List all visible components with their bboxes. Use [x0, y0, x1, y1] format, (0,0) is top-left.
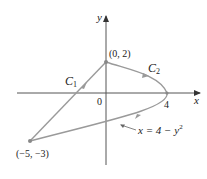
equation-label: x = 4 − y2	[137, 123, 183, 136]
point-0-2	[104, 60, 108, 64]
y-axis-label: y	[96, 11, 102, 23]
point-4-0	[165, 91, 168, 94]
c2-label: C2	[148, 61, 160, 76]
x-tick-4-label: 4	[164, 99, 169, 110]
line-integral-diagram: y x 0 4 (0, 2) (−5, −3) C1 C2 x = 4 − y2	[0, 0, 207, 179]
point-label-0-2: (0, 2)	[109, 48, 131, 60]
point-label-neg5-neg3: (−5, −3)	[16, 148, 49, 160]
origin-label: 0	[97, 96, 102, 107]
point-neg5-neg3	[28, 139, 32, 143]
c2-direction-arrow-icon-lower	[135, 114, 141, 119]
c1-label: C1	[65, 74, 77, 89]
c1-direction-arrow-icon	[81, 82, 87, 89]
x-axis-label: x	[193, 94, 199, 106]
